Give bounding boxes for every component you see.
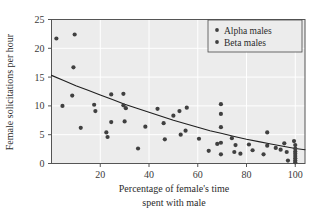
data-point <box>143 125 147 129</box>
data-point <box>219 112 223 116</box>
scatter-plot-figure: 0510152025 20406080100 Female solicitati… <box>0 0 314 219</box>
legend-label-beta-males: Beta males <box>224 38 266 48</box>
data-point <box>104 130 108 134</box>
data-point <box>232 150 236 154</box>
data-point <box>285 150 289 154</box>
data-point <box>292 139 296 143</box>
data-point <box>124 106 128 110</box>
y-axis-title: Female solicitations per hour <box>4 33 15 150</box>
data-point <box>185 106 189 110</box>
data-point <box>250 148 254 152</box>
data-point <box>136 146 140 150</box>
data-point <box>219 141 223 145</box>
data-point <box>207 149 211 153</box>
data-point <box>293 160 297 164</box>
data-point <box>109 120 113 124</box>
data-point <box>233 143 237 147</box>
data-point <box>60 104 64 108</box>
data-point <box>230 136 234 140</box>
data-point <box>171 114 175 118</box>
data-point <box>219 102 223 106</box>
data-point <box>121 92 125 96</box>
data-point <box>93 109 97 113</box>
legend: Alpha males Beta males <box>208 20 302 52</box>
data-point <box>219 125 223 129</box>
x-tick-label: 60 <box>193 169 203 180</box>
y-tick-label: 5 <box>40 129 45 140</box>
data-point <box>79 126 83 130</box>
y-tick-label: 15 <box>35 72 45 83</box>
y-tick-label: 25 <box>35 14 45 25</box>
x-axis-title-line1: Percentage of female's time <box>119 183 230 194</box>
data-point <box>73 32 77 36</box>
data-point <box>219 152 223 156</box>
data-point <box>265 130 269 134</box>
x-tick-label: 80 <box>242 169 252 180</box>
x-tick-label: 100 <box>288 169 303 180</box>
data-point <box>279 148 283 152</box>
data-point <box>105 135 109 139</box>
data-point <box>274 146 278 150</box>
data-point <box>265 144 269 148</box>
data-point <box>286 159 290 163</box>
data-point <box>155 107 159 111</box>
legend-marker-alpha-males-icon <box>215 28 219 32</box>
legend-marker-beta-males-icon <box>215 40 219 44</box>
data-point <box>183 129 187 133</box>
data-point <box>282 141 286 145</box>
x-tick-label: 20 <box>95 169 105 180</box>
x-axis-title-line2: spent with male <box>142 197 206 208</box>
y-tick-label: 0 <box>40 158 45 169</box>
data-point <box>109 92 113 96</box>
data-point <box>247 142 251 146</box>
legend-label-alpha-males: Alpha males <box>224 26 272 36</box>
data-point <box>215 142 219 146</box>
data-point <box>238 152 242 156</box>
data-point <box>92 103 96 107</box>
data-point <box>177 109 181 113</box>
data-point <box>70 93 74 97</box>
chart-canvas: 0510152025 20406080100 Female solicitati… <box>0 0 314 219</box>
data-point <box>162 121 166 125</box>
y-tick-label: 10 <box>35 100 45 111</box>
data-point <box>54 36 58 40</box>
x-tick-label: 40 <box>144 169 154 180</box>
data-point <box>123 119 127 123</box>
data-point <box>163 137 167 141</box>
y-tick-label: 20 <box>35 43 45 54</box>
data-point <box>71 65 75 69</box>
data-point <box>197 137 201 141</box>
data-point <box>179 133 183 137</box>
data-point <box>261 152 265 156</box>
